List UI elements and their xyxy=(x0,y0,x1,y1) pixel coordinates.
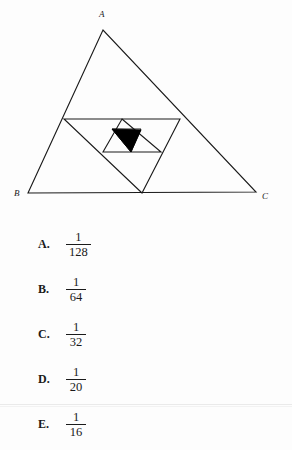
choice-letter-a: A. xyxy=(38,237,60,252)
choice-letter-c: C. xyxy=(38,327,60,342)
vertex-label-b: B xyxy=(14,188,20,198)
geometry-figure: A B C xyxy=(0,0,292,218)
page-canvas: A B C A. 1 128 B. 1 64 C. 1 xyxy=(0,0,292,450)
choice-letter-d: D. xyxy=(38,372,60,387)
choice-value-c: 1 32 xyxy=(66,321,86,349)
choice-value-a: 1 128 xyxy=(66,231,91,259)
vertex-label-a: A xyxy=(98,9,105,19)
choice-letter-e: E. xyxy=(38,417,60,432)
answer-choice-c[interactable]: C. 1 32 xyxy=(0,312,292,357)
vertex-label-c: C xyxy=(262,191,269,201)
choice-b-denominator: 64 xyxy=(67,290,86,304)
choice-a-numerator: 1 xyxy=(72,231,84,245)
choice-b-numerator: 1 xyxy=(70,276,82,290)
choice-e-denominator: 16 xyxy=(67,425,86,439)
choice-d-numerator: 1 xyxy=(70,366,82,380)
choice-letter-b: B. xyxy=(38,282,60,297)
choice-value-e: 1 16 xyxy=(66,411,86,439)
answer-choices-list: A. 1 128 B. 1 64 C. 1 32 D. xyxy=(0,222,292,447)
choice-d-denominator: 20 xyxy=(67,380,86,394)
choice-c-denominator: 32 xyxy=(67,335,86,349)
choice-e-numerator: 1 xyxy=(70,411,82,425)
shaded-region xyxy=(112,129,141,152)
outer-triangle xyxy=(28,30,256,193)
choice-value-b: 1 64 xyxy=(66,276,86,304)
answer-choice-a[interactable]: A. 1 128 xyxy=(0,222,292,267)
scan-artifact-line xyxy=(0,406,292,407)
answer-choice-b[interactable]: B. 1 64 xyxy=(0,267,292,312)
answer-choice-d[interactable]: D. 1 20 xyxy=(0,357,292,402)
choice-c-numerator: 1 xyxy=(70,321,82,335)
choice-value-d: 1 20 xyxy=(66,366,86,394)
figure-svg: A B C xyxy=(0,0,292,218)
choice-a-denominator: 128 xyxy=(66,245,91,259)
scan-artifact-line xyxy=(0,404,292,405)
answer-choice-e[interactable]: E. 1 16 xyxy=(0,402,292,447)
